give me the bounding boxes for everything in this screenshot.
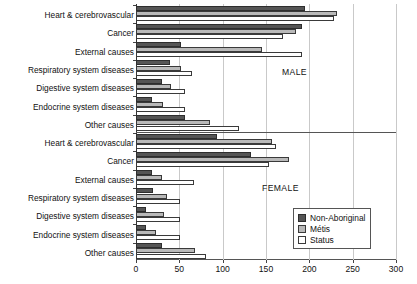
gridline xyxy=(396,4,397,260)
panel-title-female: FEMALE xyxy=(262,183,299,193)
legend-swatch-icon xyxy=(298,214,306,222)
x-axis-tick-label: 50 xyxy=(175,264,185,274)
category-label: Endocrine system diseases xyxy=(2,103,134,112)
x-axis-tick xyxy=(266,260,267,263)
x-axis-tick xyxy=(353,260,354,263)
bar xyxy=(136,52,302,57)
x-axis: 050100150200250300 xyxy=(136,260,396,282)
category-label: Respiratory system diseases xyxy=(2,66,134,75)
category-label: Cancer xyxy=(2,157,134,166)
legend-item[interactable]: Métis xyxy=(298,223,365,234)
chart-legend: Non-AboriginalMétisStatus xyxy=(293,208,371,249)
x-axis-tick xyxy=(396,260,397,263)
category-label: Respiratory system diseases xyxy=(2,194,134,203)
legend-label: Métis xyxy=(310,224,330,234)
category-label: Endocrine system diseases xyxy=(2,231,134,240)
x-axis-tick xyxy=(179,260,180,263)
category-label: Cancer xyxy=(2,29,134,38)
x-axis-tick-label: 300 xyxy=(389,264,403,274)
x-axis-tick-label: 150 xyxy=(259,264,273,274)
category-label: Other causes xyxy=(2,249,134,258)
x-axis-tick-label: 100 xyxy=(215,264,229,274)
grouped-bar-chart: Heart & cerebrovascularCancerExternal ca… xyxy=(0,0,417,284)
category-label-column: Heart & cerebrovascularCancerExternal ca… xyxy=(0,0,134,284)
bar xyxy=(136,89,185,94)
bar xyxy=(136,199,180,204)
bar xyxy=(136,217,180,222)
category-label: External causes xyxy=(2,176,134,185)
category-label: Digestive system diseases xyxy=(2,84,134,93)
bar xyxy=(136,180,194,185)
category-label: Heart & cerebrovascular xyxy=(2,11,134,20)
panel-title-male: MALE xyxy=(282,67,307,77)
x-axis-tick-label: 250 xyxy=(345,264,359,274)
bar xyxy=(136,107,185,112)
bar xyxy=(136,254,206,259)
category-label: Other causes xyxy=(2,121,134,130)
x-axis-tick xyxy=(223,260,224,263)
legend-label: Status xyxy=(310,235,334,245)
bar xyxy=(136,16,334,21)
legend-item[interactable]: Non-Aboriginal xyxy=(298,212,365,223)
legend-swatch-icon xyxy=(298,236,306,244)
bar xyxy=(136,144,276,149)
bar xyxy=(136,71,192,76)
category-label: External causes xyxy=(2,48,134,57)
legend-label: Non-Aboriginal xyxy=(310,213,365,223)
bar xyxy=(136,162,269,167)
x-axis-tick-label: 0 xyxy=(134,264,139,274)
category-label: Heart & cerebrovascular xyxy=(2,139,134,148)
legend-swatch-icon xyxy=(298,225,306,233)
legend-item[interactable]: Status xyxy=(298,234,365,245)
bar xyxy=(136,34,283,39)
x-axis-tick xyxy=(136,260,137,263)
category-label: Digestive system diseases xyxy=(2,212,134,221)
x-axis-tick xyxy=(309,260,310,263)
bar xyxy=(136,235,180,240)
bar xyxy=(136,126,239,131)
x-axis-tick-label: 200 xyxy=(302,264,316,274)
